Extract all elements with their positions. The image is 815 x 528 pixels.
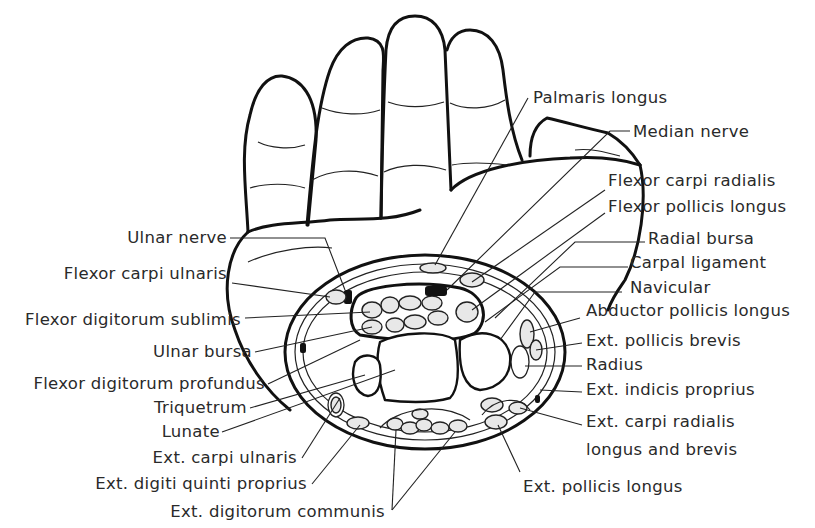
label-ext-carpi-radialis-line1: Ext. carpi radialis xyxy=(586,413,735,431)
label-ext-carpi-radialis-line2: longus and brevis xyxy=(586,441,737,459)
label-palmaris-longus: Palmaris longus xyxy=(533,89,667,107)
label-ext-indicis-proprius: Ext. indicis proprius xyxy=(586,381,755,399)
wrist-cross-section-diagram: Ulnar nerve Flexor carpi ulnaris Flexor … xyxy=(0,0,815,528)
label-median-nerve: Median nerve xyxy=(633,123,749,141)
label-ext-pollicis-longus: Ext. pollicis longus xyxy=(523,478,683,496)
label-radius: Radius xyxy=(586,356,643,374)
label-ext-pollicis-brevis: Ext. pollicis brevis xyxy=(586,332,741,350)
label-abductor-pollicis-longus: Abductor pollicis longus xyxy=(586,302,790,320)
label-flexor-carpi-radialis: Flexor carpi radialis xyxy=(608,172,776,190)
label-carpal-ligament: Carpal ligament xyxy=(630,254,766,272)
flexor-tendons xyxy=(362,296,478,334)
label-flexor-digitorum-sublimis: Flexor digitorum sublimis xyxy=(25,311,241,329)
label-ext-carpi-ulnaris: Ext. carpi ulnaris xyxy=(153,449,297,467)
wrist-section xyxy=(285,255,565,449)
label-lunate: Lunate xyxy=(162,423,220,441)
label-ext-digitorum-communis: Ext. digitorum communis xyxy=(170,503,385,521)
label-triquetrum: Triquetrum xyxy=(154,399,247,417)
median-nerve-mark xyxy=(425,286,447,296)
label-navicular: Navicular xyxy=(630,279,711,297)
carpal-bones xyxy=(353,333,510,402)
label-flexor-digitorum-profundus: Flexor digitorum profundus xyxy=(33,375,265,393)
label-flexor-pollicis-longus: Flexor pollicis longus xyxy=(608,198,786,216)
label-ulnar-bursa: Ulnar bursa xyxy=(153,343,252,361)
label-ulnar-nerve: Ulnar nerve xyxy=(127,229,227,247)
label-ext-digiti-quinti-proprius: Ext. digiti quinti proprius xyxy=(95,475,307,493)
label-radial-bursa: Radial bursa xyxy=(648,230,754,248)
label-flexor-carpi-ulnaris: Flexor carpi ulnaris xyxy=(64,265,227,283)
